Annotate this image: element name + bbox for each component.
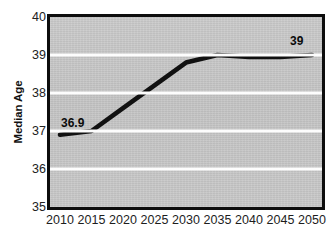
x-axis-tick-2035: 2035 (204, 212, 232, 228)
x-axis-tick-2045: 2045 (267, 212, 295, 228)
x-axis-tick-labels: 201020152020202520302035204020452050 (47, 212, 325, 230)
x-axis-tick-2025: 2025 (141, 212, 169, 228)
series-line-path (60, 55, 312, 135)
y-axis-tick-40: 40 (16, 11, 46, 24)
median-age-line-chart: Median Age 403938373635 2010201520202025… (0, 0, 334, 231)
plot-area (47, 14, 325, 210)
y-axis-tick-35: 35 (16, 201, 46, 214)
plot-inner (50, 17, 322, 207)
median-age-series (50, 17, 322, 207)
x-axis-tick-2015: 2015 (78, 212, 106, 228)
y-axis-tick-38: 38 (16, 87, 46, 100)
y-axis-tick-39: 39 (16, 49, 46, 62)
gridline-37 (50, 130, 322, 133)
data-label-39: 39 (290, 35, 303, 47)
x-axis-tick-2040: 2040 (235, 212, 263, 228)
gridline-39 (50, 54, 322, 57)
x-axis-tick-2050: 2050 (298, 212, 326, 228)
x-axis-tick-2020: 2020 (109, 212, 137, 228)
gridline-38 (50, 92, 322, 95)
x-axis-tick-2030: 2030 (172, 212, 200, 228)
data-label-36-9: 36.9 (61, 117, 84, 129)
y-axis-tick-37: 37 (16, 125, 46, 138)
y-axis-tick-36: 36 (16, 163, 46, 176)
x-axis-tick-2010: 2010 (46, 212, 74, 228)
gridline-36 (50, 168, 322, 171)
y-axis-tick-labels: 403938373635 (16, 14, 46, 210)
